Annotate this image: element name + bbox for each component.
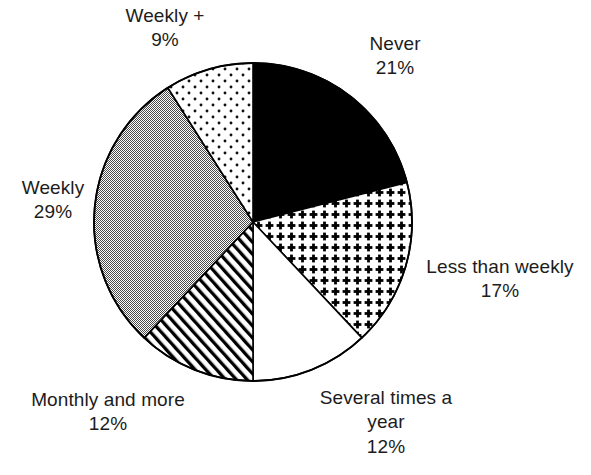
slice-label-monthly-and-more: Monthly and more 12% xyxy=(8,388,208,437)
slice-label-monthly-and-more-value: 12% xyxy=(8,412,208,436)
slice-label-several-times-a-year: Several times a year 12% xyxy=(303,386,469,459)
slice-label-less-than-weekly-value: 17% xyxy=(410,279,590,303)
slice-label-several-times-a-year-line1: Several times a xyxy=(303,386,469,410)
slice-label-weekly-title: Weekly xyxy=(0,176,108,200)
slice-label-less-than-weekly: Less than weekly 17% xyxy=(410,255,590,304)
slice-label-weekly-plus-title: Weekly + xyxy=(100,4,230,28)
slice-label-monthly-and-more-title: Monthly and more xyxy=(8,388,208,412)
slice-label-never: Never 21% xyxy=(330,32,460,81)
slice-label-never-value: 21% xyxy=(330,56,460,80)
slice-label-never-title: Never xyxy=(330,32,460,56)
slice-label-less-than-weekly-title: Less than weekly xyxy=(410,255,590,279)
slice-label-several-times-a-year-value: 12% xyxy=(303,435,469,459)
slice-label-weekly-value: 29% xyxy=(0,200,108,224)
slice-label-several-times-a-year-line2: year xyxy=(303,410,469,434)
slice-label-weekly: Weekly 29% xyxy=(0,176,108,225)
slice-label-weekly-plus-value: 9% xyxy=(100,28,230,52)
slice-label-weekly-plus: Weekly + 9% xyxy=(100,4,230,53)
pie-chart: Weekly + 9% Never 21% Weekly 29% Less th… xyxy=(0,0,591,475)
